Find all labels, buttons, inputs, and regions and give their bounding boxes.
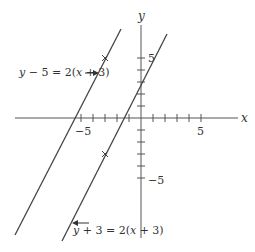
- y-axis-label: y: [137, 9, 145, 23]
- x-tick-label-5: 5: [197, 125, 204, 138]
- line-2-equation-label: y + 3 = 2(x + 3): [72, 224, 164, 237]
- y-tick-label-neg5: −5: [148, 174, 164, 187]
- coordinate-graph: x y −5 5 5 −5 y − 5 = 2(x + 3) y + 3 = 2…: [0, 0, 255, 252]
- line-1: [15, 29, 121, 235]
- eq1-rest: − 5 = 2(: [25, 66, 76, 79]
- eq2-rest: + 3 = 2(: [79, 224, 130, 237]
- x-axis-label: x: [241, 111, 248, 125]
- x-tick-label-neg5: −5: [75, 125, 91, 138]
- eq2-end: + 3): [136, 224, 164, 237]
